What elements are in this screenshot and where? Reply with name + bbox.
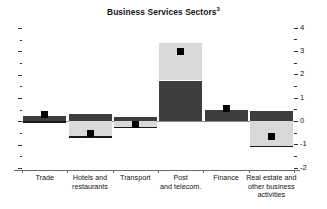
y-axis-right: 43210-1-2 — [294, 28, 327, 170]
chart-figure: Business Services Sectors3 43210-1-2 Tra… — [0, 0, 327, 209]
category-label-line: activities — [244, 191, 299, 200]
bar-segment-dark — [159, 81, 202, 122]
tick-mark — [294, 86, 297, 87]
y-axis-tick-label: 1 — [300, 93, 304, 103]
x-axis-tick — [113, 170, 114, 173]
bar-bottom-edge — [250, 146, 293, 148]
total-marker — [268, 133, 275, 140]
tick-mark — [294, 156, 297, 157]
tick-mark — [294, 98, 298, 99]
y-axis-tick-label: 3 — [300, 46, 304, 56]
x-axis-tick — [294, 170, 295, 173]
y-axis-tick-label: 4 — [300, 23, 304, 33]
bar-group — [250, 28, 293, 168]
category-label-line: and telecom. — [153, 183, 208, 192]
tick-mark — [294, 109, 297, 110]
bar-bottom-edge — [23, 121, 66, 123]
total-marker — [223, 105, 230, 112]
tick-mark — [294, 144, 298, 145]
x-axis-tick — [67, 170, 68, 173]
bar-segment-dark — [69, 114, 112, 121]
x-axis-tick — [203, 170, 204, 173]
x-axis-tick — [249, 170, 250, 173]
total-marker — [177, 48, 184, 55]
bar-segment-dark — [250, 111, 293, 122]
bar-group — [205, 28, 248, 168]
y-axis-tick-label: -2 — [300, 163, 307, 173]
x-axis-tick — [158, 170, 159, 173]
chart-title-text: Business Services Sectors — [107, 7, 217, 17]
bar-group — [23, 28, 66, 168]
tick-mark — [294, 51, 298, 52]
y-axis-tick-label: -1 — [300, 139, 307, 149]
total-marker — [87, 130, 94, 137]
y-axis-tick-label: 0 — [300, 116, 304, 126]
bar-group — [69, 28, 112, 168]
chart-title: Business Services Sectors3 — [0, 6, 327, 17]
bar-group — [159, 28, 202, 168]
tick-mark — [294, 121, 298, 122]
y-axis-left-major-tick — [18, 168, 22, 169]
x-axis-category-labels: TradeHotels andrestaurantsTransportPosta… — [22, 174, 294, 208]
x-axis-tick — [22, 170, 23, 173]
tick-mark — [294, 39, 297, 40]
chart-title-footnote-marker: 3 — [217, 6, 220, 12]
bar-group — [114, 28, 157, 168]
tick-mark — [294, 133, 297, 134]
plot-area — [22, 28, 294, 168]
y-axis-tick-label: 2 — [300, 69, 304, 79]
tick-mark — [294, 28, 298, 29]
category-label-line: restaurants — [62, 183, 117, 192]
tick-mark — [294, 74, 298, 75]
total-marker — [41, 111, 48, 118]
tick-mark — [294, 168, 298, 169]
y-axis-left-ticks — [14, 28, 22, 170]
total-marker — [132, 121, 139, 128]
x-axis-category-label: Real estate andother businessactivities — [244, 174, 299, 200]
tick-mark — [294, 63, 297, 64]
x-axis-line — [14, 170, 300, 171]
